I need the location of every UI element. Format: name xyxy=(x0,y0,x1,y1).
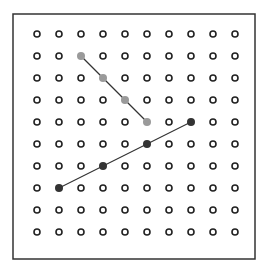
peg xyxy=(232,207,238,213)
grey-segment-line xyxy=(81,56,147,122)
peg xyxy=(144,31,150,37)
peg-grid xyxy=(34,31,238,235)
peg xyxy=(188,75,194,81)
peg xyxy=(166,97,172,103)
peg xyxy=(78,31,84,37)
geoboard xyxy=(0,0,268,275)
peg xyxy=(56,141,62,147)
peg xyxy=(232,185,238,191)
peg xyxy=(210,163,216,169)
peg xyxy=(144,163,150,169)
peg xyxy=(56,207,62,213)
peg xyxy=(56,163,62,169)
peg xyxy=(166,207,172,213)
peg xyxy=(122,207,128,213)
peg xyxy=(122,75,128,81)
peg xyxy=(34,207,40,213)
peg xyxy=(122,31,128,37)
peg xyxy=(122,119,128,125)
peg xyxy=(56,31,62,37)
peg xyxy=(100,31,106,37)
peg xyxy=(78,207,84,213)
black-segment-point xyxy=(143,140,151,148)
black-segment-line xyxy=(59,122,191,188)
peg xyxy=(34,31,40,37)
peg xyxy=(210,141,216,147)
peg xyxy=(166,75,172,81)
black-segment-point xyxy=(187,118,195,126)
peg xyxy=(188,185,194,191)
peg xyxy=(210,119,216,125)
peg xyxy=(34,53,40,59)
peg xyxy=(100,53,106,59)
peg xyxy=(232,97,238,103)
peg xyxy=(232,119,238,125)
peg xyxy=(144,185,150,191)
peg xyxy=(210,97,216,103)
peg xyxy=(34,185,40,191)
peg xyxy=(144,75,150,81)
peg xyxy=(122,141,128,147)
peg xyxy=(56,97,62,103)
peg xyxy=(210,229,216,235)
grey-segment-point xyxy=(143,118,151,126)
peg xyxy=(34,119,40,125)
peg xyxy=(78,97,84,103)
peg xyxy=(166,185,172,191)
peg xyxy=(56,53,62,59)
peg xyxy=(78,75,84,81)
peg xyxy=(232,75,238,81)
peg xyxy=(188,207,194,213)
peg xyxy=(188,141,194,147)
peg xyxy=(232,141,238,147)
peg xyxy=(188,97,194,103)
peg xyxy=(122,163,128,169)
peg xyxy=(166,119,172,125)
peg xyxy=(100,185,106,191)
peg xyxy=(232,31,238,37)
peg xyxy=(34,163,40,169)
peg xyxy=(144,53,150,59)
grey-segment-point xyxy=(121,96,129,104)
peg xyxy=(188,31,194,37)
peg xyxy=(166,141,172,147)
peg xyxy=(100,119,106,125)
peg xyxy=(100,207,106,213)
peg xyxy=(188,163,194,169)
peg xyxy=(56,229,62,235)
peg xyxy=(122,229,128,235)
peg xyxy=(188,229,194,235)
grey-segment-point xyxy=(99,74,107,82)
peg xyxy=(232,53,238,59)
peg xyxy=(34,97,40,103)
peg xyxy=(166,229,172,235)
peg xyxy=(78,185,84,191)
peg xyxy=(166,31,172,37)
peg xyxy=(210,31,216,37)
peg xyxy=(144,207,150,213)
peg xyxy=(78,119,84,125)
peg xyxy=(144,97,150,103)
peg xyxy=(34,229,40,235)
peg xyxy=(34,141,40,147)
peg xyxy=(144,229,150,235)
board-frame xyxy=(13,14,255,259)
peg xyxy=(210,207,216,213)
peg xyxy=(166,53,172,59)
black-segment-point xyxy=(99,162,107,170)
peg xyxy=(56,119,62,125)
peg xyxy=(78,229,84,235)
peg xyxy=(210,185,216,191)
peg xyxy=(100,229,106,235)
peg xyxy=(100,141,106,147)
peg xyxy=(78,163,84,169)
peg xyxy=(100,97,106,103)
peg xyxy=(188,53,194,59)
peg xyxy=(56,75,62,81)
grey-segment-point xyxy=(77,52,85,60)
peg xyxy=(232,163,238,169)
peg xyxy=(34,75,40,81)
black-segment-point xyxy=(55,184,63,192)
peg xyxy=(122,185,128,191)
peg xyxy=(210,53,216,59)
